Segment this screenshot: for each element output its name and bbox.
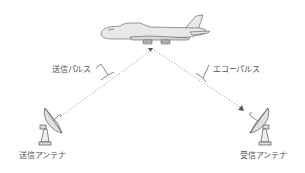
transmit-pulse-icon bbox=[96, 64, 114, 80]
transmit-antenna-icon bbox=[39, 108, 62, 145]
echo-pulse-label: エコーパルス bbox=[213, 65, 260, 75]
airplane-icon bbox=[101, 15, 210, 44]
transmit-antenna-label: 送信アンテナ bbox=[19, 151, 66, 161]
receive-antenna-icon bbox=[250, 108, 271, 145]
echo-arrowhead bbox=[238, 105, 244, 111]
echo-path bbox=[154, 50, 240, 107]
receive-antenna-label: 受信アンテナ bbox=[240, 151, 287, 161]
echo-pulse-icon bbox=[196, 65, 209, 82]
transmit-pulse-label: 送信パルス bbox=[52, 65, 91, 75]
reflection-point-marker bbox=[148, 48, 153, 52]
transmit-path bbox=[60, 52, 149, 117]
radar-diagram bbox=[0, 0, 305, 173]
